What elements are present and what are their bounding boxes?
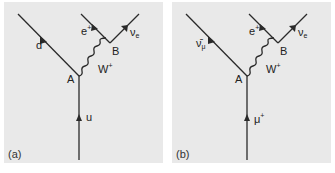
label-vertex-b: B: [280, 46, 287, 57]
label-outgoing-left: d: [36, 40, 42, 51]
panel-caption-b: (b): [176, 148, 189, 160]
label-lepton: e+: [81, 24, 91, 37]
label-boson: W+: [98, 62, 112, 75]
panel-caption-a: (a): [8, 148, 21, 160]
label-lepton: e+: [249, 24, 259, 37]
label-outgoing-left: ν̄μ: [196, 38, 206, 50]
label-vertex-a: A: [67, 74, 74, 85]
label-incoming: u: [86, 112, 92, 123]
feynman-diagram-panel-a: d e+ νe B W+ A u (a): [4, 2, 163, 163]
label-vertex-b: B: [112, 46, 119, 57]
label-neutrino: νe: [130, 27, 139, 39]
feynman-diagram-panel-b: ν̄μ e+ νe B W+ A μ+ (b): [172, 2, 331, 163]
label-neutrino: νe: [298, 27, 307, 39]
label-vertex-a: A: [235, 74, 242, 85]
label-incoming: μ+: [254, 112, 264, 125]
label-boson: W+: [266, 62, 280, 75]
